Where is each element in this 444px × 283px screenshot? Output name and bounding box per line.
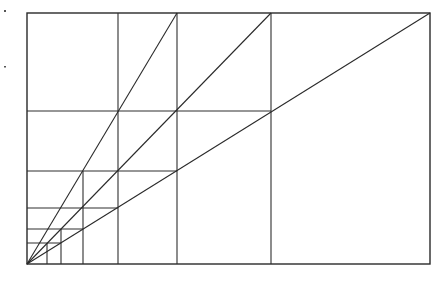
ray-middle	[27, 13, 271, 264]
vertical-grid-lines	[47, 13, 271, 264]
nested-rectangles-diagram	[0, 0, 444, 283]
ray-steep	[27, 13, 177, 264]
ray-shallow	[27, 13, 430, 264]
scan-mark	[4, 10, 6, 12]
diagonal-rays	[27, 13, 430, 264]
scan-mark	[4, 66, 6, 68]
horizontal-grid-lines	[27, 111, 271, 243]
